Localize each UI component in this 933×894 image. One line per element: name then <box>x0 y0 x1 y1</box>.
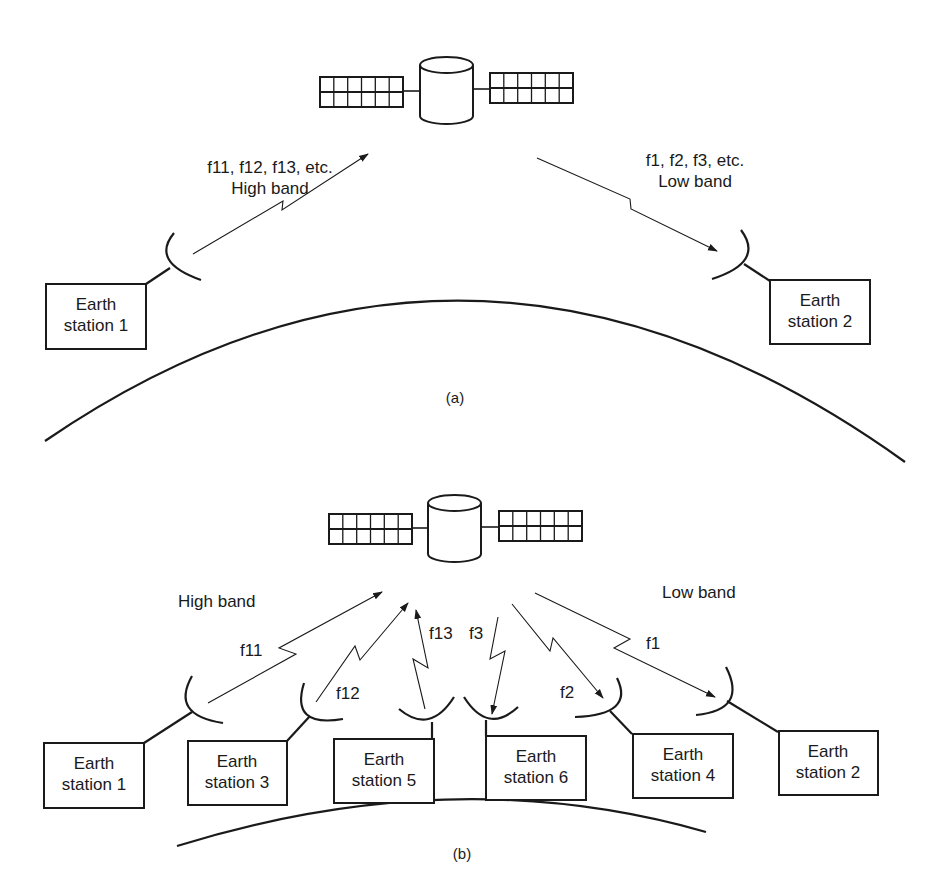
panel-a-caption: (a) <box>446 389 464 406</box>
link-label-f13: f13 <box>429 624 453 643</box>
earth-station-4: Earth station 4 <box>575 678 733 798</box>
svg-text:station 4: station 4 <box>651 766 715 785</box>
link-label-f1: f1 <box>646 634 660 653</box>
svg-text:station 1: station 1 <box>62 775 126 794</box>
svg-text:station 6: station 6 <box>504 768 568 787</box>
link-label-f12: f12 <box>336 684 360 703</box>
svg-text:Earth: Earth <box>800 291 841 310</box>
downlink-arrow-f3 <box>490 617 505 714</box>
panel-b-caption: (b) <box>453 845 471 862</box>
earth-station-2: Earth station 2 <box>712 230 870 344</box>
satellite-icon <box>320 57 573 124</box>
downlink-freq-label: f1, f2, f3, etc. <box>646 151 744 170</box>
uplink-arrow-f13 <box>413 610 428 709</box>
solar-panel-left <box>320 77 403 107</box>
satellite-body <box>420 57 473 124</box>
uplink-freq-label: f11, f12, f13, etc. <box>207 158 332 177</box>
earth-station-5: Earth station 5 <box>334 697 454 803</box>
link-label-f3: f3 <box>469 624 483 643</box>
dish-antenna-icon <box>186 676 223 723</box>
dish-antenna-icon <box>575 678 621 717</box>
earth-station-6: Earth station 6 <box>464 697 586 800</box>
svg-text:station 2: station 2 <box>788 312 852 331</box>
svg-text:station 1: station 1 <box>64 316 128 335</box>
link-label-f2: f2 <box>560 683 574 702</box>
earth-surface-curve <box>177 799 706 846</box>
high-band-label: High band <box>178 592 256 611</box>
dish-antenna-icon <box>712 230 748 279</box>
downlink-band-label: Low band <box>658 172 732 191</box>
svg-text:Earth: Earth <box>74 754 115 773</box>
svg-text:Earth: Earth <box>516 747 557 766</box>
satellite-frequency-diagram: f11, f12, f13, etc. High band f1, f2, f3… <box>0 0 933 894</box>
dish-antenna-icon <box>166 233 201 280</box>
dish-antenna-icon <box>464 697 518 719</box>
svg-text:Earth: Earth <box>808 742 849 761</box>
solar-panel-left <box>329 514 412 544</box>
satellite-body <box>428 495 481 562</box>
solar-panel-right <box>490 73 573 103</box>
earth-station-1: Earth station 1 <box>46 233 201 349</box>
svg-text:Earth: Earth <box>217 752 258 771</box>
uplink-band-label: High band <box>231 179 309 198</box>
link-label-f11: f11 <box>240 641 262 660</box>
svg-text:station 5: station 5 <box>352 771 416 790</box>
svg-text:Earth: Earth <box>663 745 704 764</box>
panel-a: f11, f12, f13, etc. High band f1, f2, f3… <box>45 57 905 462</box>
satellite-icon <box>329 495 582 562</box>
svg-text:station 2: station 2 <box>796 763 860 782</box>
svg-text:station 3: station 3 <box>205 773 269 792</box>
uplink-arrow-f12 <box>316 603 408 702</box>
svg-text:Earth: Earth <box>364 750 405 769</box>
low-band-label: Low band <box>662 583 736 602</box>
svg-text:Earth: Earth <box>76 295 117 314</box>
downlink-arrow-f1 <box>535 593 715 697</box>
panel-b: High band Low band f11 f12 f13 f3 f2 f1 … <box>44 495 878 862</box>
dish-antenna-icon <box>399 697 454 720</box>
solar-panel-right <box>499 511 582 541</box>
downlink-arrow-f2 <box>512 604 603 698</box>
